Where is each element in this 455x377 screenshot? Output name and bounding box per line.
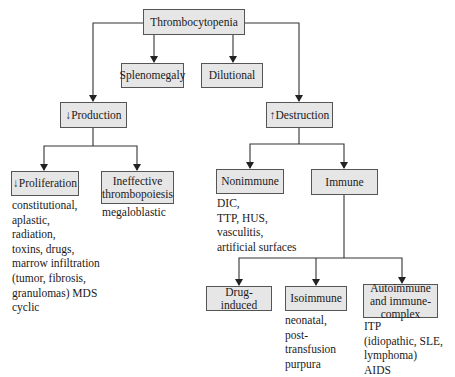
- node-production: ↓Production: [60, 102, 127, 128]
- proliferation-causes: constitutional, aplastic, radiation, tox…: [12, 198, 100, 315]
- root-node-thrombocytopenia: Thrombocytopenia: [143, 9, 245, 35]
- nonimmune-causes: DIC, TTP, HUS, vasculitis, artificial su…: [217, 196, 297, 254]
- node-autoimmune-immune-complex: Autoimmune and immune-complex: [363, 284, 438, 318]
- node-proliferation: ↓Proliferation: [11, 171, 79, 196]
- node-destruction: ↑Destruction: [266, 102, 333, 128]
- node-dilutional: Dilutional: [201, 63, 263, 88]
- node-drug-induced: Drug-induced: [206, 286, 272, 311]
- isoimmune-causes: neonatal, post- transfusion purpura: [285, 313, 336, 371]
- ineffective-causes: megaloblastic: [102, 205, 166, 220]
- node-ineffective-thrombopoiesis: Ineffective thrombopoiesis: [101, 171, 174, 204]
- node-isoimmune: Isoimmune: [285, 286, 347, 311]
- node-nonimmune: Nonimmune: [216, 169, 284, 194]
- autoimmune-causes: ITP (idiopathic, SLE, lymphoma) AIDS: [364, 319, 443, 377]
- node-immune: Immune: [311, 169, 378, 195]
- node-splenomegaly: Splenomegaly: [121, 63, 184, 88]
